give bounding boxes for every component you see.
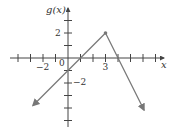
x-tick-label-3: 3 xyxy=(103,62,109,72)
x-axis-label: x xyxy=(161,59,167,70)
vertex-point xyxy=(104,31,108,35)
plot-canvas: g(x) x −2 0 3 2 −2 xyxy=(0,0,176,132)
segment-right xyxy=(106,33,145,110)
y-tick-label-2: 2 xyxy=(55,28,61,38)
graph-g-of-x: g(x) x −2 0 3 2 −2 xyxy=(0,0,176,132)
x-tick-label-neg2: −2 xyxy=(36,62,49,72)
y-tick-label-neg2: −2 xyxy=(73,77,86,87)
origin-label: 0 xyxy=(59,58,65,68)
y-axis-label: g(x) xyxy=(46,4,66,15)
